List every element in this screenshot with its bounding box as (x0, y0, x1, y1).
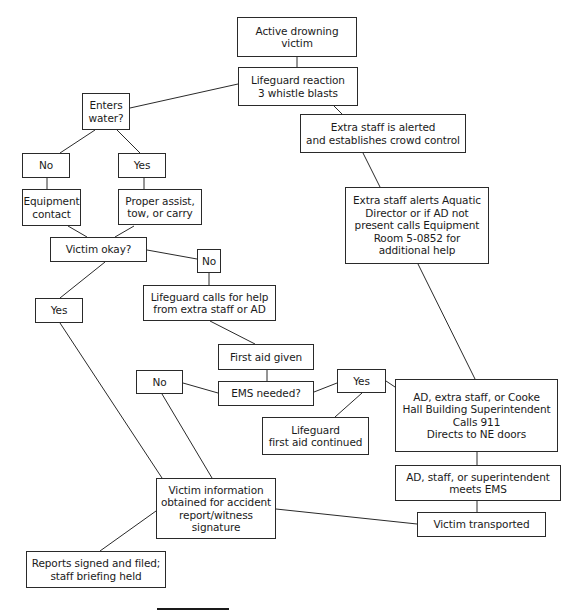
node-lifeguard-reaction: Lifeguard reaction 3 whistle blasts (238, 67, 358, 106)
node-lifeguard-calls-help: Lifeguard calls for help from extra staf… (143, 285, 276, 321)
node-proper-assist: Proper assist, tow, or carry (118, 189, 202, 225)
decision-ems-needed: EMS needed? (218, 381, 314, 406)
branch-yes-enter-water: Yes (118, 153, 166, 178)
node-active-drowning-victim: Active drowning victim (237, 17, 357, 57)
node-calls-911: AD, extra staff, or Cooke Hall Building … (395, 379, 558, 452)
branch-ems-no: No (136, 370, 183, 394)
node-reports-signed: Reports signed and filed; staff briefing… (26, 551, 166, 588)
node-first-aid-given: First aid given (218, 344, 314, 370)
branch-no-enter-water: No (22, 153, 70, 178)
node-extra-staff-alerted: Extra staff is alerted and establishes c… (300, 114, 466, 153)
node-alerts-aquatic-director: Extra staff alerts Aquatic Director or i… (345, 187, 489, 264)
node-victim-transported: Victim transported (417, 512, 546, 537)
node-equipment-contact: Equipment contact (22, 189, 81, 226)
node-first-aid-continued: Lifeguard first aid continued (262, 417, 369, 455)
branch-ems-yes: Yes (337, 369, 386, 393)
decision-enters-water: Enters water? (82, 93, 130, 130)
node-meets-ems: AD, staff, or superintendent meets EMS (395, 465, 561, 501)
branch-victim-okay-yes: Yes (35, 298, 83, 323)
node-victim-information: Victim information obtained for accident… (156, 478, 276, 539)
decision-victim-okay: Victim okay? (50, 237, 147, 262)
bottom-divider-rule (157, 608, 229, 610)
branch-victim-okay-no: No (197, 249, 221, 273)
